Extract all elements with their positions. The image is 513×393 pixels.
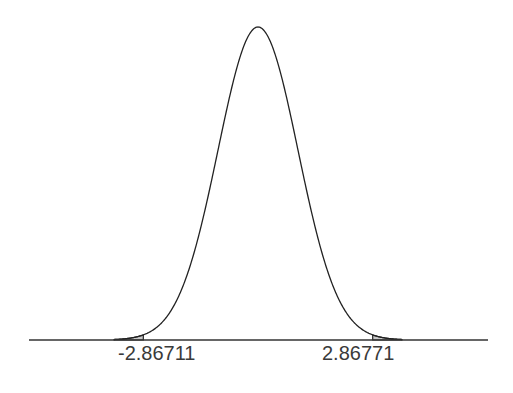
density-curve <box>114 27 402 340</box>
lower-critical-value-label: -2.86711 <box>118 341 195 365</box>
normal-distribution-chart <box>0 0 513 393</box>
upper-critical-value-label: 2.86771 <box>322 341 394 365</box>
